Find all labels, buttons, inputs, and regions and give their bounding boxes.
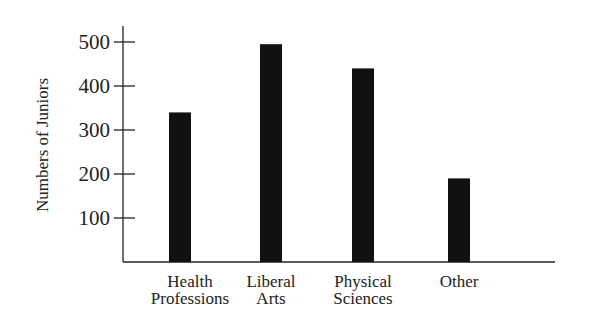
bar <box>352 68 374 262</box>
y-tick-label: 300 <box>60 120 110 140</box>
y-tick-label: 500 <box>60 32 110 52</box>
bar <box>260 44 282 262</box>
y-tick-label: 100 <box>60 208 110 228</box>
bar <box>448 178 470 262</box>
x-tick-label: Other <box>404 273 514 290</box>
bars <box>169 44 470 262</box>
bar <box>169 112 191 262</box>
y-tick-label: 200 <box>60 164 110 184</box>
y-tick-label: 400 <box>60 76 110 96</box>
y-axis-label: Numbers of Juniors <box>33 55 53 235</box>
x-tick-label: PhysicalSciences <box>308 273 418 307</box>
